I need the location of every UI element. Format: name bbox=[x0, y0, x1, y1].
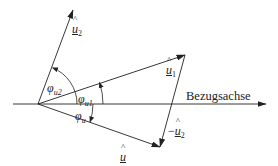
vector-neg-u2-label: −^u2 bbox=[168, 125, 185, 140]
vector-u2-label: ^u2 bbox=[72, 23, 82, 38]
vector-u-label: ^u bbox=[120, 151, 126, 163]
angle-label-phi-u2: φu2 bbox=[47, 82, 62, 97]
reference-axis-label: Bezugsachse bbox=[186, 90, 251, 103]
vector-u1-label: ^u1 bbox=[166, 64, 176, 79]
angle-arc-phi-u1 bbox=[100, 83, 104, 105]
angle-label-phi-u1: φu1 bbox=[78, 93, 93, 108]
angle-label-phi-u: φu bbox=[75, 110, 86, 125]
phasor-diagram bbox=[0, 0, 278, 166]
vector-u-hat bbox=[38, 104, 160, 147]
